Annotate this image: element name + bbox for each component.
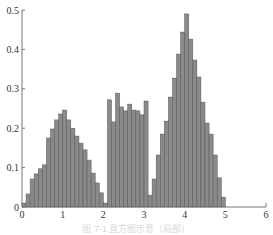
y-tick-label: 0.1 <box>7 162 20 173</box>
histogram-bar <box>22 203 26 207</box>
histogram-bar <box>132 110 136 207</box>
histogram-bar <box>99 193 103 207</box>
histogram-bars <box>22 14 225 207</box>
histogram-bar <box>221 197 225 207</box>
histogram-bar <box>87 160 91 207</box>
histogram-bar <box>63 110 67 207</box>
histogram-bar <box>30 179 34 207</box>
histogram-bar <box>38 169 42 207</box>
x-tick-label: 0 <box>20 209 25 220</box>
x-tick-label: 1 <box>60 209 65 220</box>
histogram-bar <box>140 115 144 207</box>
histogram-bar <box>83 150 87 207</box>
histogram-bar <box>67 120 71 207</box>
histogram-bar <box>50 129 54 207</box>
x-tick-label: 2 <box>101 209 106 220</box>
figure-caption: 图 7-1 直方图示意（局部） <box>0 222 273 235</box>
histogram-bar <box>209 134 213 207</box>
histogram-bar <box>34 174 38 207</box>
histogram-bar <box>103 203 107 207</box>
x-tick-label: 4 <box>182 209 187 220</box>
histogram-bar <box>193 60 197 207</box>
histogram-bar <box>120 107 124 207</box>
histogram-bar <box>177 54 181 207</box>
histogram-bar <box>189 39 193 207</box>
y-tick-label: 0.2 <box>7 123 20 134</box>
histogram-bar <box>185 14 189 207</box>
y-tick-label: 0.4 <box>7 44 20 55</box>
histogram-bar <box>116 93 120 207</box>
histogram-bar <box>91 173 95 207</box>
x-tick-label: 6 <box>264 209 269 220</box>
histogram-bar <box>213 155 217 207</box>
histogram-bar <box>144 101 148 207</box>
histogram-bar <box>59 114 63 207</box>
histogram-bar <box>26 194 30 207</box>
histogram-bar <box>168 97 172 207</box>
histogram-bar <box>128 104 132 207</box>
histogram-bar <box>181 32 185 207</box>
histogram-bar <box>42 165 46 207</box>
histogram-bar <box>95 183 99 207</box>
histogram-chart: 00.10.20.30.40.5 0123456 <box>0 0 273 235</box>
y-tick-label: 0 <box>14 202 19 213</box>
x-tick-label: 5 <box>223 209 228 220</box>
x-axis-ticks: 0123456 <box>20 209 269 220</box>
histogram-bar <box>136 111 140 207</box>
histogram-bar <box>201 102 205 207</box>
histogram-bar <box>197 77 201 207</box>
histogram-bar <box>107 100 111 207</box>
histogram-bar <box>152 179 156 207</box>
histogram-bar <box>111 122 115 207</box>
histogram-bar <box>164 121 168 207</box>
histogram-bar <box>156 155 160 207</box>
histogram-bar <box>217 178 221 207</box>
histogram-bar <box>75 136 79 207</box>
histogram-bar <box>71 128 75 207</box>
histogram-bar <box>79 143 83 207</box>
histogram-bar <box>148 195 152 207</box>
histogram-bar <box>172 78 176 207</box>
x-tick-label: 3 <box>142 209 147 220</box>
histogram-bar <box>124 111 128 207</box>
histogram-bar <box>205 123 209 207</box>
histogram-bar <box>55 120 59 207</box>
histogram-bar <box>46 138 50 207</box>
y-tick-label: 0.3 <box>7 83 20 94</box>
y-tick-label: 0.5 <box>7 5 20 16</box>
histogram-bar <box>160 134 164 207</box>
